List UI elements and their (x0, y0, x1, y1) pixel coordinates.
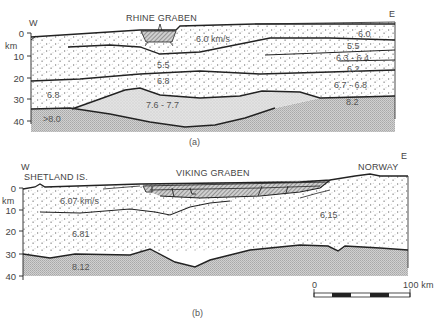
section-a-east-label: E (389, 10, 395, 19)
section-b-west-label: W (21, 163, 30, 172)
section-b-depth-tick-20: 20 (0, 227, 16, 237)
velocity-label-6-81: 6.81 (72, 230, 90, 239)
section-a-depth-unit: km (5, 42, 17, 51)
velocity-label-6-8-west: 6.8 (47, 91, 60, 100)
velocity-label-6-7-6-8: 6.7 - 6.8 (334, 81, 367, 90)
section-b-depth-tick-0: 0 (0, 184, 16, 194)
velocity-label-6-0-east: 6.0 (358, 30, 371, 39)
velocity-label-6-2: 6.2 (347, 65, 360, 74)
scale-bar-start-label: 0 (312, 281, 317, 290)
section-b-depth-tick-30: 30 (0, 250, 16, 260)
section-a-west-label: W (29, 19, 38, 28)
section-b-depth-tick-40: 40 (0, 272, 16, 282)
velocity-label-6-3-6-4: 6.3 - 6.4 (336, 54, 369, 63)
section-b-east-label: E (401, 152, 407, 161)
velocity-label-6-0-main: 6.0 km/s (196, 35, 230, 44)
section-b-east-place: NORWAY (358, 163, 399, 172)
cross-section-drawing (0, 0, 439, 322)
section-b-title: VIKING GRABEN (176, 169, 250, 178)
velocity-label-5-5-east: 5.5 (347, 42, 360, 51)
scale-bar-graphic (314, 289, 410, 297)
velocity-label-6-8-center: 6.8 (157, 77, 170, 86)
section-b-depth-tick-10: 10 (0, 206, 16, 216)
section-b-caption: (b) (192, 308, 203, 318)
section-a-depth-tick-0: 0 (2, 29, 24, 39)
velocity-label-6-15: 6.15 (320, 211, 338, 220)
section-a-depth-tick-10: 10 (2, 52, 24, 62)
velocity-label-5-5-center: 5.5 (157, 61, 170, 70)
velocity-label-8-2: 8.2 (346, 98, 359, 107)
section-a-depth-tick-40: 40 (2, 117, 24, 127)
scale-bar-end-label: 100 km (403, 281, 434, 290)
velocity-label-8-12: 8.12 (72, 263, 90, 272)
section-a-title: RHINE GRABEN (126, 14, 197, 23)
section-a-depth-tick-30: 30 (2, 95, 24, 105)
velocity-label-7-6-7-7: 7.6 - 7.7 (146, 101, 179, 110)
velocity-label-6-07: 6.07 km/s (60, 197, 99, 206)
velocity-label-mantle-west: >8.0 (43, 115, 61, 124)
section-b-west-place: SHETLAND IS. (24, 173, 88, 182)
section-a-depth-tick-20: 20 (2, 74, 24, 84)
section-a-caption: (a) (189, 137, 200, 147)
